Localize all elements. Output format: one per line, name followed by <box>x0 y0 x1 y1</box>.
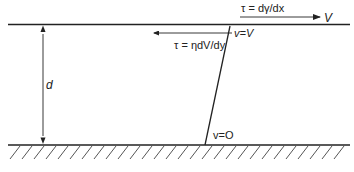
gap-d-label: d <box>46 79 53 91</box>
top-velocity-label: V <box>324 12 332 24</box>
gap-arrow-bottom-icon <box>41 138 46 145</box>
v-top-label: v=V <box>234 28 253 39</box>
top-shear-label: τ = dγ/dx <box>241 3 284 14</box>
gap-arrow-top-icon <box>41 26 46 33</box>
shear-flow-diagram <box>0 0 354 172</box>
v-bottom-label: v=O <box>213 130 233 141</box>
viscous-shear-label: τ = ηdV/dy <box>174 40 225 51</box>
ground-hatching <box>10 146 344 159</box>
